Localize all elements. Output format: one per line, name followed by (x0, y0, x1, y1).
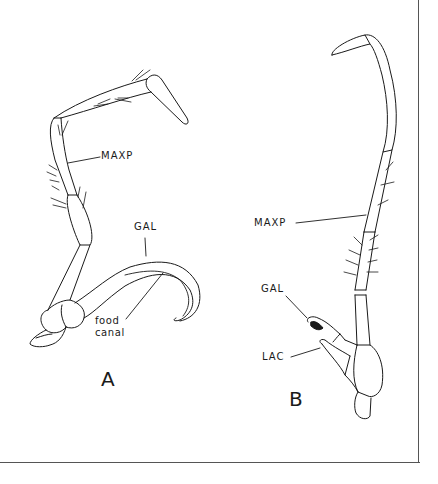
panel-b-lower-segment (355, 295, 370, 345)
panel-b-galea (307, 317, 345, 340)
mouthpart-diagram: MAXP GAL food canal A MAXP GAL LAC B (0, 0, 438, 484)
panel-b-leader-lines (286, 215, 366, 357)
panel-a-label-maxp: MAXP (101, 151, 133, 161)
panel-a-upper-segment (54, 79, 151, 118)
panel-a-label-gal: GAL (134, 222, 157, 232)
panel-a-label-food: food (95, 315, 120, 326)
panel-a-apical-segment (146, 75, 188, 124)
panel-a-lower-segment (67, 195, 92, 245)
panel-b-lacinia (320, 339, 350, 375)
panel-a-letter: A (101, 369, 115, 389)
line-drawing (0, 0, 438, 484)
panel-b-drawing (307, 35, 396, 419)
panel-b-apical-segment (332, 35, 370, 55)
panel-b-label-gal: GAL (261, 284, 284, 294)
panel-b-letter: B (289, 389, 303, 409)
panel-a-cardo (30, 327, 66, 347)
panel-a-galea (75, 262, 200, 321)
panel-b-label-lac: LAC (262, 352, 284, 362)
panel-b-upper-segment (364, 150, 392, 232)
panel-b-galea-brush (311, 321, 323, 329)
panel-b-label-maxp: MAXP (254, 218, 286, 228)
panel-a-drawing (30, 70, 200, 347)
panel-a-middle-segment (50, 118, 77, 195)
panel-a-label-canal: canal (95, 327, 125, 338)
